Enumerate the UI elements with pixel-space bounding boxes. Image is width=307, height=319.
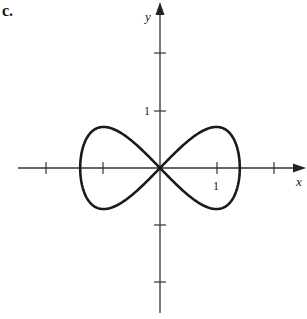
figure-eight-plot: y x 1 1 (0, 0, 307, 319)
y-axis-arrow-icon (156, 2, 165, 15)
y-axis-label: y (143, 9, 151, 24)
x-tick-label: 1 (213, 179, 219, 193)
x-axis (18, 162, 306, 174)
y-tick-label: 1 (144, 104, 150, 118)
x-axis-arrow-icon (293, 164, 306, 173)
y-axis (154, 2, 166, 313)
x-axis-label: x (295, 174, 302, 189)
